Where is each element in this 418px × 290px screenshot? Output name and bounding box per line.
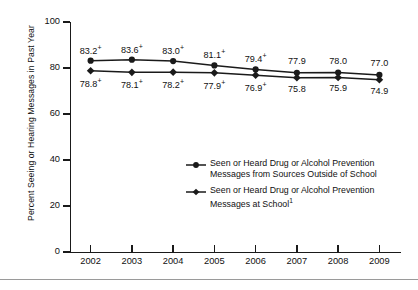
chart-legend: Seen or Heard Drug or Alcohol Prevention… [186,158,418,215]
legend-item-outside-school[interactable]: Seen or Heard Drug or Alcohol Prevention… [186,158,418,179]
data-point-label: 77.9 [274,56,320,66]
series-plot-area [0,0,418,290]
data-point-marker [129,57,135,63]
legend-label-line2: Messages at School [210,199,289,209]
data-point-marker [211,62,217,68]
data-point-label: 83.0+ [150,44,196,56]
data-point-marker [128,69,136,77]
legend-label-at-school: Seen or Heard Drug or Alcohol Prevention… [210,185,418,209]
footnote-divider [0,279,418,280]
data-point-marker [334,74,342,82]
data-point-label: 79.4+ [233,52,279,64]
data-point-label: 81.1+ [191,48,237,60]
data-point-label: 74.9 [356,86,402,96]
chart-figure: Percent Seeing or Hearing Messages in Pa… [0,0,418,290]
legend-marker-circle-icon [186,161,206,169]
legend-footnote-marker: 1 [289,197,293,204]
data-point-label: 78.2+ [150,78,196,90]
data-point-marker [211,69,219,77]
data-point-label: 83.6+ [109,43,155,55]
data-point-label: 76.9+ [233,81,279,93]
legend-item-at-school[interactable]: Seen or Heard Drug or Alcohol Prevention… [186,185,418,209]
data-point-label: 78.1+ [109,78,155,90]
data-point-marker [170,58,176,64]
legend-marker-diamond-icon [186,188,206,196]
legend-label-line2: Messages from Sources Outside of School [210,169,377,179]
data-point-label: 77.9+ [191,79,237,91]
data-point-label: 75.9 [315,83,361,93]
legend-label-line1: Seen or Heard Drug or Alcohol Prevention [210,158,374,168]
data-point-label: 83.2+ [68,44,114,56]
data-point-label: 78.0 [315,56,361,66]
data-point-marker [293,74,301,82]
data-point-label: 78.8+ [68,77,114,89]
data-point-marker [376,76,384,84]
data-point-label: 75.8 [274,84,320,94]
data-point-marker [87,67,95,75]
data-point-label: 77.0 [356,58,402,68]
data-point-marker [88,58,94,64]
data-point-marker [252,71,260,79]
legend-label-line1: Seen or Heard Drug or Alcohol Prevention [210,185,374,195]
data-point-marker [169,68,177,76]
legend-label-outside-school: Seen or Heard Drug or Alcohol Prevention… [210,158,418,179]
